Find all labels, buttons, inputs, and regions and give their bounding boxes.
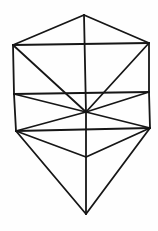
edge-BR-C xyxy=(86,112,150,128)
edge-T-TR xyxy=(84,15,149,43)
edge-MR-BR xyxy=(149,92,150,128)
edge-T-TL xyxy=(13,15,84,45)
edge-BL-C xyxy=(16,112,86,131)
diagram-canvas xyxy=(0,0,158,231)
edge-BR-LC xyxy=(86,128,150,157)
edge-TL-TR xyxy=(13,43,149,45)
edge-ML-MR xyxy=(14,92,149,94)
edge-TL-ML xyxy=(13,45,14,94)
edge-ML-BL xyxy=(14,94,16,131)
edge-T-C xyxy=(84,15,86,112)
geometric-line-diagram xyxy=(0,0,158,231)
edge-BL-BR xyxy=(16,128,150,131)
edge-BR-B xyxy=(86,128,150,214)
